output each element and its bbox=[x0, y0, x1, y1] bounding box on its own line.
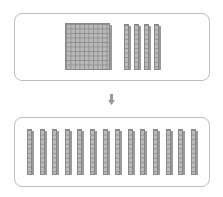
ten-rod-block bbox=[124, 24, 129, 70]
ten-rod-block bbox=[65, 129, 70, 175]
ten-rod-block bbox=[77, 129, 82, 175]
ten-rod-block bbox=[115, 129, 120, 175]
ten-rod-block bbox=[134, 24, 139, 70]
ten-rod-block bbox=[178, 129, 183, 175]
hundred-flat-block bbox=[65, 23, 110, 70]
ten-rod-block bbox=[52, 129, 57, 175]
ten-rod-block bbox=[27, 129, 32, 175]
ten-rod-block bbox=[166, 129, 171, 175]
ten-rod-block bbox=[103, 129, 108, 175]
ten-rod-block bbox=[40, 129, 45, 175]
ten-rod-block bbox=[154, 24, 159, 70]
ten-rod-block bbox=[140, 129, 145, 175]
ten-rod-block bbox=[191, 129, 196, 175]
ten-rod-block bbox=[128, 129, 133, 175]
down-arrow-icon bbox=[108, 94, 115, 105]
ten-rod-block bbox=[90, 129, 95, 175]
ten-rod-block bbox=[144, 24, 149, 70]
ten-rod-block bbox=[153, 129, 158, 175]
top-block-group bbox=[14, 13, 210, 81]
